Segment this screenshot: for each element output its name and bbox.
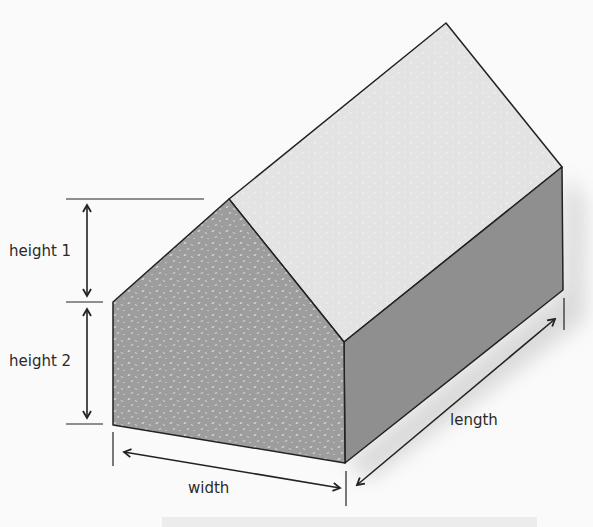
height1-label: height 1 — [9, 244, 71, 259]
bottom-shade-bar — [162, 517, 537, 527]
length-label: length — [450, 413, 498, 428]
house-diagram — [0, 0, 593, 527]
width-label: width — [188, 481, 229, 496]
height2-label: height 2 — [9, 354, 71, 369]
